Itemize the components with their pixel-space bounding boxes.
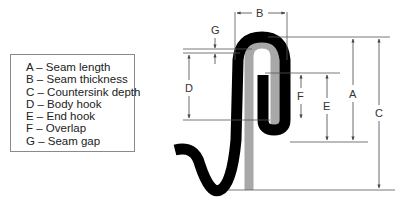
dim-label-b: B (256, 7, 263, 19)
end-hook-shape (175, 37, 285, 191)
dim-label-f: F (297, 90, 304, 102)
double-seam-diagram: B G D F E A C (0, 0, 413, 211)
dim-label-g: G (211, 24, 220, 36)
dim-label-e: E (323, 100, 330, 112)
dim-label-a: A (349, 88, 357, 100)
dim-label-c: C (375, 107, 383, 119)
dim-label-d: D (185, 82, 193, 94)
